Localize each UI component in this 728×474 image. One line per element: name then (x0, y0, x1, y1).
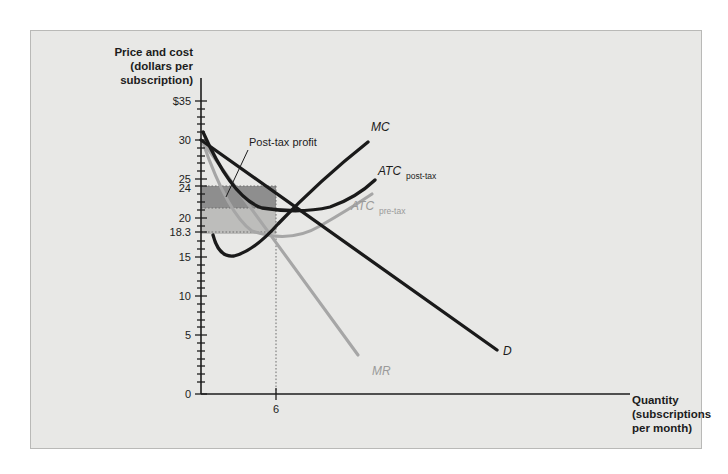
y-tick-label-5: 5 (185, 329, 191, 341)
y-tick-label-24: 24 (179, 182, 191, 194)
y-axis-title-line3: subscription) (120, 74, 193, 86)
curve-label-atc-post-tax: ATC post-tax (377, 164, 437, 181)
y-axis-title-line2: (dollars per (130, 60, 193, 72)
profit-annotation-label: Post-tax profit (249, 136, 317, 148)
curve-label-demand: D (503, 344, 512, 358)
y-tick-label-35: $35 (173, 95, 191, 107)
y-tick-label-20: 20 (179, 212, 191, 224)
economics-chart: $35 30 25 24 20 18.3 15 10 5 0 6 Price a… (0, 0, 728, 474)
x-tick-label-6: 6 (273, 403, 279, 415)
figure-stage: $35 30 25 24 20 18.3 15 10 5 0 6 Price a… (0, 0, 728, 474)
x-axis-title-line1: Quantity (632, 394, 679, 406)
x-axis-title-line3: per month) (632, 422, 692, 434)
curve-label-mr: MR (372, 364, 391, 378)
shaded-region-total-cost (201, 208, 276, 234)
y-axis-title-line1: Price and cost (114, 46, 193, 58)
curve-label-atc-pre-tax-base: ATC (350, 199, 374, 213)
curve-label-mc: MC (371, 120, 390, 134)
y-tick-label-0: 0 (185, 388, 191, 400)
curve-demand (201, 140, 497, 350)
x-axis-title-line2: (subscriptions (632, 408, 711, 420)
curve-label-atc-pre-tax-sub: pre-tax (379, 206, 406, 216)
y-tick-label-18-3: 18.3 (170, 226, 191, 238)
y-tick-label-30: 30 (179, 134, 191, 146)
curve-label-atc-pre-tax: ATC pre-tax (350, 199, 406, 216)
curve-label-atc-post-tax-sub: post-tax (406, 171, 437, 181)
curve-label-atc-post-tax-base: ATC (377, 164, 401, 178)
y-tick-label-15: 15 (179, 251, 191, 263)
y-tick-label-10: 10 (179, 290, 191, 302)
